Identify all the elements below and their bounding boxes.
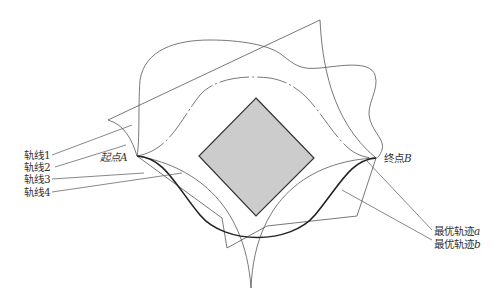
optimal-b-prefix: 最优轨迹 (434, 238, 474, 250)
end-prefix: 终点 (384, 152, 404, 164)
label-trajectory-1: 轨线1 (24, 149, 51, 161)
end-var: B (404, 152, 412, 164)
optimal-a-var: a (474, 225, 480, 237)
label-trajectory-3: 轨线3 (24, 173, 51, 185)
leader-line-3 (52, 173, 144, 179)
start-prefix: 起点 (100, 151, 120, 163)
obstacle-diamond (199, 98, 314, 216)
label-optimal-b: 最优轨迹b (434, 238, 481, 250)
optimal-b-var: b (474, 238, 481, 250)
leader-line-a (366, 160, 432, 230)
start-var: A (120, 151, 128, 163)
label-trajectory-4: 轨线4 (24, 186, 51, 198)
leader-line-4 (52, 173, 182, 192)
label-trajectory-2: 轨线2 (24, 161, 51, 173)
trajectory-diagram: 轨线1 轨线2 轨线3 轨线4 起点A 终点B 最优轨迹a 最优轨迹b (0, 0, 500, 305)
label-end-point: 终点B (384, 152, 412, 164)
optimal-a-prefix: 最优轨迹 (434, 225, 474, 237)
label-start-point: 起点A (100, 151, 128, 163)
label-optimal-a: 最优轨迹a (434, 225, 480, 237)
diagram-graphics (0, 0, 500, 305)
leader-line-b (342, 190, 432, 240)
